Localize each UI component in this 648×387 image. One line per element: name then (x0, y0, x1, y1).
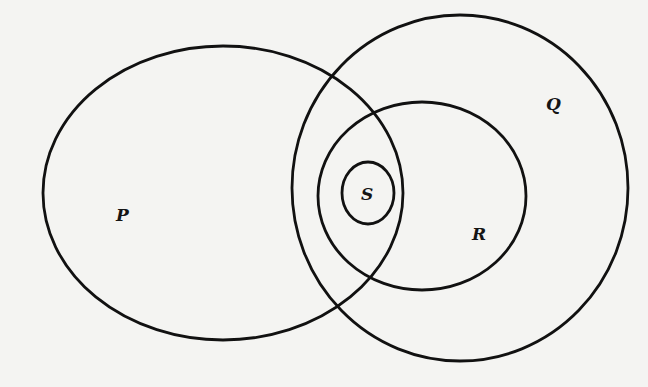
venn-diagram: PQRS (0, 0, 648, 387)
set-p-outline (43, 46, 403, 340)
set-r-label: R (471, 224, 486, 244)
set-q-label: Q (546, 94, 561, 114)
venn-diagram-svg: PQRS (0, 0, 648, 387)
set-r-outline (318, 102, 526, 290)
set-s-label: S (361, 184, 373, 204)
set-p-label: P (115, 205, 130, 225)
